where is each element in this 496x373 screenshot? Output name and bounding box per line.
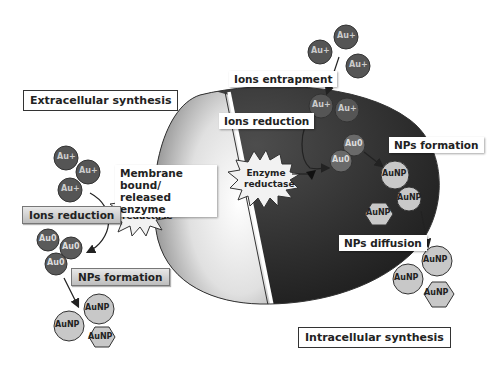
intracellular-title: Intracellular synthesis (298, 327, 451, 348)
ions-entrapment-label: Ions entrapment (229, 71, 337, 87)
ion-label: Au+ (79, 166, 98, 175)
atom-label: Au0 (62, 242, 79, 251)
np-label: AuNP (423, 255, 447, 264)
ion-label: Au+ (61, 184, 80, 193)
np-label: AuNP (366, 208, 390, 217)
np-label: AuNP (394, 273, 418, 282)
ion-label: Au+ (337, 31, 356, 40)
atom-label: Au0 (332, 155, 349, 164)
np-label: AuNP (85, 303, 109, 312)
enzyme-line2: reductase (244, 179, 288, 190)
enzyme-label-right: Enzyme reductase (244, 168, 288, 190)
ion-label: Au+ (311, 46, 330, 55)
np-label: AuNP (382, 169, 406, 178)
ions-reduction-label-right: Ions reduction (219, 113, 314, 129)
atom-label: Au0 (345, 139, 362, 148)
ion-label: Au+ (338, 104, 357, 113)
np-label: AuNP (88, 332, 112, 341)
membrane-enzyme-label: Membrane bound/ released enzyme (115, 165, 217, 217)
np-label: AuNP (397, 193, 421, 202)
extracellular-title: Extracellular synthesis (23, 90, 178, 111)
ions-reduction-label-left: Ions reduction (22, 206, 121, 224)
atom-label: Au0 (39, 234, 56, 243)
ion-label: Au+ (57, 152, 76, 161)
diagram-canvas: Au+ Au+ Au+ Au0 Au0 Au0 AuNP AuNP AuNP A… (0, 0, 496, 373)
enzyme-line1: Enzyme (244, 168, 288, 179)
nps-formation-label-left: NPs formation (71, 268, 170, 286)
atom-label: Au0 (47, 258, 64, 267)
np-label: AuNP (424, 288, 448, 297)
ion-label: Au+ (349, 60, 368, 69)
np-label: AuNP (55, 320, 79, 329)
nps-diffusion-label: NPs diffusion (339, 235, 427, 251)
ion-label: Au+ (312, 100, 331, 109)
nps-formation-label-right: NPs formation (389, 137, 484, 153)
